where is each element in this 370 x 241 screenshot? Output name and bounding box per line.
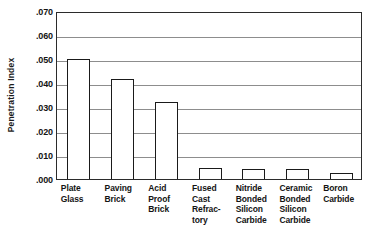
x-label-line: Paving	[105, 183, 132, 194]
x-label-line: Boron	[323, 183, 354, 194]
y-axis-tick-4: .030	[36, 103, 53, 113]
bar-series	[57, 13, 361, 179]
y-axis-tick-3: .040	[36, 79, 53, 89]
y-axis-tick-5: .020	[36, 127, 53, 137]
x-label-line: Acid	[148, 183, 170, 194]
y-axis-tick-6: .010	[36, 151, 53, 161]
x-label-line: Fused	[192, 183, 221, 194]
x-label-line: Silicon	[279, 204, 312, 215]
x-label-line: Ceramic	[279, 183, 312, 194]
bar-3	[199, 168, 222, 179]
x-label-line: Plate	[61, 183, 84, 194]
x-label-5: CeramicBondedSiliconCarbide	[279, 183, 312, 225]
bar-6	[330, 173, 353, 179]
plot-area	[56, 12, 362, 180]
x-label-3: FusedCastRefrac-tory	[192, 183, 221, 225]
x-label-line: Brick	[148, 204, 170, 215]
x-label-line: Silicon	[236, 204, 267, 215]
chart-figure: Penetration Index .070.060.050.040.030.0…	[0, 0, 370, 241]
y-axis-tick-7: .000	[36, 175, 53, 185]
x-label-line: Bonded	[236, 194, 267, 205]
x-label-0: PlateGlass	[61, 183, 84, 204]
x-label-line: Glass	[61, 194, 84, 205]
bar-0	[67, 59, 90, 179]
y-axis-tick-2: .050	[36, 55, 53, 65]
x-label-line: Carbide	[279, 215, 312, 226]
x-axis-category-labels: PlateGlassPavingBrickAcidProofBrickFused…	[56, 183, 362, 241]
x-label-6: BoronCarbide	[323, 183, 354, 204]
x-label-2: AcidProofBrick	[148, 183, 170, 215]
y-axis-title: Penetration Index	[0, 0, 22, 190]
bar-1	[111, 79, 134, 179]
x-label-line: tory	[192, 215, 221, 226]
x-label-line: Nitride	[236, 183, 267, 194]
x-label-line: Brick	[105, 194, 132, 205]
x-label-1: PavingBrick	[105, 183, 132, 204]
y-axis-tick-0: .070	[36, 7, 53, 17]
x-label-4: NitrideBondedSiliconCarbide	[236, 183, 267, 225]
y-axis-title-text: Penetration Index	[6, 58, 16, 133]
x-label-line: Refrac-	[192, 204, 221, 215]
x-label-line: Carbide	[323, 194, 354, 205]
y-axis-tick-labels: .070.060.050.040.030.020.010.000	[20, 12, 56, 180]
x-label-line: Carbide	[236, 215, 267, 226]
x-label-line: Bonded	[279, 194, 312, 205]
y-axis-tick-1: .060	[36, 31, 53, 41]
x-label-line: Proof	[148, 194, 170, 205]
bar-4	[242, 169, 265, 179]
x-label-line: Cast	[192, 194, 221, 205]
bar-2	[155, 102, 178, 179]
bar-5	[286, 169, 309, 179]
